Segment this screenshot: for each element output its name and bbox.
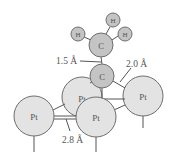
c-c-bond <box>101 57 102 64</box>
svg-text:Pt: Pt <box>139 92 147 102</box>
cpt-bond-length-label: 2.0 Å <box>126 58 147 69</box>
pt-atom-front: Pt <box>76 97 116 137</box>
svg-text:H: H <box>75 31 80 39</box>
svg-text:H: H <box>122 31 127 39</box>
carbon-atom-methyl: C <box>89 33 113 57</box>
svg-text:C: C <box>99 72 105 82</box>
hydrogen-atom-left: H <box>71 27 85 41</box>
pt-atom-left: Pt <box>14 96 54 136</box>
carbon-atom-bottom: C <box>90 64 114 88</box>
svg-text:Pt: Pt <box>30 112 38 122</box>
pt-atom-right: Pt <box>123 76 163 116</box>
hydrogen-atom-top: H <box>106 13 120 27</box>
svg-text:Pt: Pt <box>92 113 100 123</box>
hydrogen-atom-right: H <box>118 27 132 41</box>
svg-text:C: C <box>98 41 104 51</box>
ethylidyne-pt-diagram: Pt Pt Pt Pt C C <box>0 0 176 158</box>
svg-text:H: H <box>110 17 115 25</box>
ptpt-distance-label: 2.8 Å <box>62 134 83 145</box>
cc-bond-length-label: 1.5 Å <box>56 55 77 66</box>
